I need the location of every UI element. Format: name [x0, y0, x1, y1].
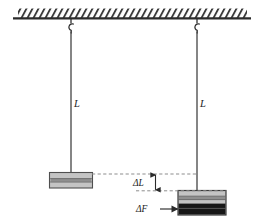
added-mass-band	[179, 204, 226, 215]
right-assembly: L	[178, 19, 226, 215]
delta-l-label: ΔL	[132, 178, 144, 188]
right-hook-icon	[195, 19, 199, 33]
unloaded-block	[50, 173, 93, 189]
left-length-label: L	[73, 98, 80, 109]
youngs-modulus-diagram: L L	[0, 0, 263, 224]
right-length-label: L	[199, 98, 206, 109]
reference-lines	[92, 174, 226, 191]
left-assembly: L	[50, 19, 93, 188]
delta-f-label: ΔF	[135, 204, 148, 214]
left-hook-icon	[69, 19, 73, 33]
delta-f-annotation: ΔF	[135, 204, 178, 214]
delta-l-measurement: ΔL	[132, 175, 156, 190]
block-divider-band	[51, 179, 92, 182]
loaded-block	[178, 191, 226, 216]
figure-canvas: L L	[0, 0, 263, 224]
loaded-block-divider-band	[179, 197, 225, 200]
ceiling-support	[13, 9, 251, 19]
ceiling-hatch	[18, 9, 247, 19]
